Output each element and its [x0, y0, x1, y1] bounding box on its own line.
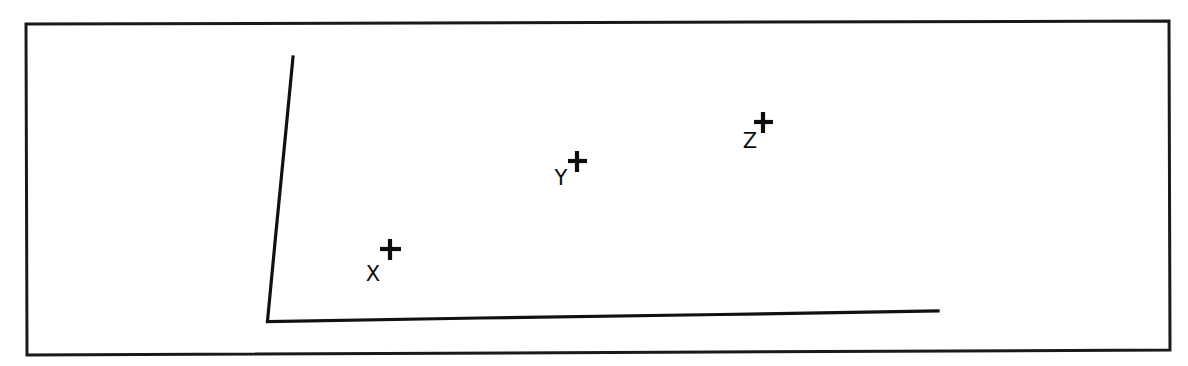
data-point-label-x: X — [366, 262, 380, 286]
figure-canvas: X Y Z — [0, 0, 1188, 366]
y-axis — [268, 57, 294, 321]
data-point-marker-x — [380, 239, 401, 260]
hand-drawn-scatter-plot: X Y Z — [0, 0, 1188, 366]
data-point-marker-y — [568, 151, 587, 172]
data-point-label-y: Y — [554, 166, 568, 190]
data-point-label-z: Z — [743, 129, 757, 153]
outer-border-rectangle — [26, 21, 1170, 355]
x-axis — [268, 311, 939, 322]
